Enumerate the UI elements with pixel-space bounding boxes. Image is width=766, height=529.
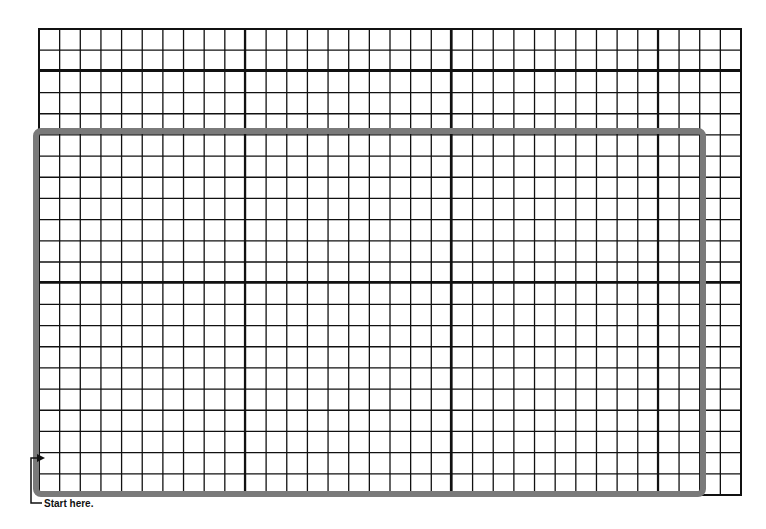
grid-paper: [0, 0, 766, 529]
start-here-label: Start here.: [44, 498, 93, 509]
right-arrow-icon: [37, 454, 45, 462]
